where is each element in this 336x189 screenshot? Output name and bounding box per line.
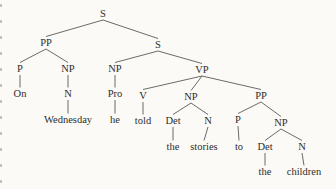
tree-node-V: V (139, 90, 147, 101)
scan-speck (0, 20, 2, 23)
tree-edge-NP3-N3 (191, 103, 208, 115)
tree-node-PP2: PP (255, 90, 267, 101)
tree-node-the2: the (259, 166, 272, 177)
left-edge-scan-artifacts (0, 0, 4, 189)
tree-edge-NP4-N4 (281, 129, 302, 141)
tree-edge-PP2-P2 (238, 102, 261, 114)
tree-node-NP4: NP (274, 117, 288, 128)
tree-node-Det1: Det (165, 115, 180, 126)
scan-speck (0, 116, 2, 119)
tree-node-PP1: PP (40, 37, 52, 48)
scan-speck (0, 68, 2, 71)
tree-edge-P2-to (238, 126, 239, 141)
tree-edge-NP4-Det2 (265, 129, 281, 141)
tree-node-P1: P (17, 63, 23, 74)
tree-node-Wednesday: Wednesday (44, 114, 93, 125)
tree-node-the1: the (167, 141, 180, 152)
scan-speck (0, 148, 2, 151)
scan-speck (0, 36, 2, 39)
tree-node-P2: P (235, 114, 241, 125)
tree-node-N3: N (204, 115, 212, 126)
tree-node-told: told (135, 115, 152, 126)
tree-node-stories: stories (190, 141, 217, 152)
tree-edge-N4-children (302, 153, 304, 166)
tree-node-he: he (110, 114, 120, 125)
tree-node-NP2: NP (108, 63, 122, 74)
scan-speck (0, 100, 2, 103)
tree-edge-S1-NP2 (115, 51, 158, 63)
tree-node-NP3: NP (184, 91, 198, 102)
scanned-page: SPPSPNPNPVPOnNProVNPPPWednesdayhetoldDet… (0, 0, 336, 189)
tree-node-Pro: Pro (108, 88, 123, 99)
tree-edge-S0-S1 (103, 20, 158, 39)
tree-edge-PP1-P1 (20, 49, 46, 63)
tree-node-S0: S (100, 8, 106, 19)
tree-node-NP1: NP (61, 63, 75, 74)
tree-node-Det2: Det (257, 141, 272, 152)
scan-speck (0, 132, 2, 135)
tree-node-N4: N (298, 141, 306, 152)
scan-speck (0, 52, 2, 55)
tree-node-children: children (287, 166, 322, 177)
tree-edge-S1-VP (158, 51, 202, 64)
tree-edge-VP-PP2 (202, 76, 261, 90)
tree-node-VP: VP (195, 64, 209, 75)
tree-edge-NP3-Det1 (173, 103, 191, 115)
scan-speck (0, 4, 2, 7)
tree-node-to: to (235, 141, 243, 152)
tree-node-N1: N (64, 88, 72, 99)
scan-speck (0, 180, 2, 183)
tree-edge-PP2-NP4 (261, 102, 281, 117)
syntax-tree-diagram: SPPSPNPNPVPOnNProVNPPPWednesdayhetoldDet… (0, 0, 336, 189)
tree-edge-N3-stories (204, 127, 208, 141)
scan-speck (0, 164, 2, 167)
tree-edge-S0-PP1 (46, 20, 103, 37)
scan-speck (0, 84, 2, 87)
tree-node-S1: S (155, 39, 161, 50)
tree-node-On: On (14, 88, 28, 99)
tree-edge-PP1-NP1 (46, 49, 68, 63)
